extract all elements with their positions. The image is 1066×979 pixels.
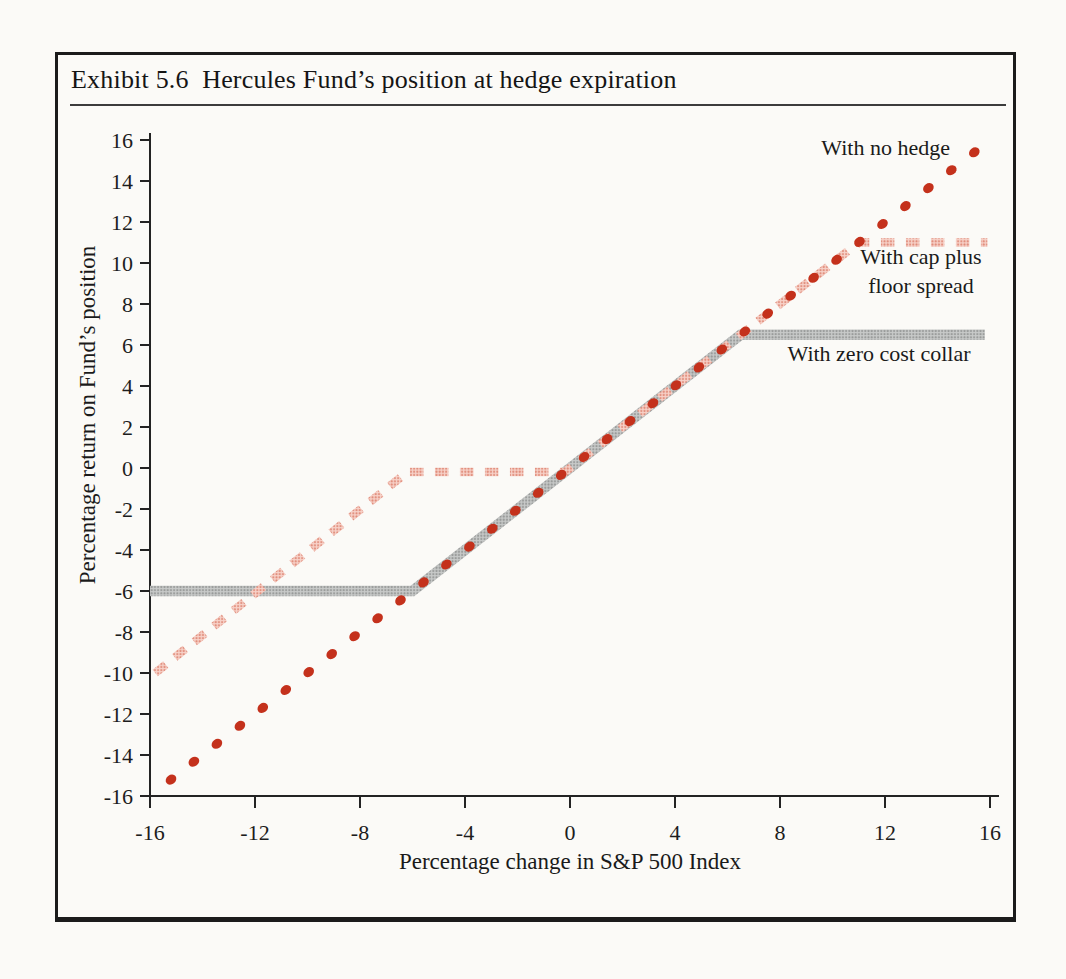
series-zero-cost-collar <box>150 335 985 591</box>
no-hedge-dot <box>347 629 362 643</box>
x-tick-label: 0 <box>565 820 576 845</box>
no-hedge-dot <box>187 755 202 769</box>
y-axis-title: Percentage return on Fund’s position <box>75 246 101 585</box>
x-tick-label: 4 <box>670 820 681 845</box>
y-tick-label: 2 <box>122 415 133 440</box>
x-tick-label: 12 <box>874 820 896 845</box>
y-tick-label: 8 <box>122 292 133 317</box>
y-tick-label: -14 <box>104 743 133 768</box>
no-hedge-dot <box>301 665 316 679</box>
no-hedge-dot <box>898 199 913 213</box>
x-tick-label: -8 <box>351 820 369 845</box>
series-label-cap-floor-line2: floor spread <box>868 273 974 298</box>
y-tick-label: 4 <box>122 374 133 399</box>
no-hedge-dot <box>210 737 225 751</box>
y-tick-label: 14 <box>111 169 133 194</box>
x-tick-label: -16 <box>135 820 164 845</box>
series-label-cap-floor-spread: With cap plus floor spread <box>843 242 999 300</box>
no-hedge-dot <box>967 145 982 159</box>
y-tick-label: 16 <box>111 128 133 153</box>
series-label-no-hedge: With no hedge <box>788 133 950 162</box>
no-hedge-dot <box>944 163 959 177</box>
no-hedge-dot <box>233 719 248 733</box>
y-tick-label: -2 <box>115 497 133 522</box>
x-tick-label: 8 <box>775 820 786 845</box>
y-tick-label: -4 <box>115 538 133 563</box>
no-hedge-dot <box>278 683 293 697</box>
y-tick-label: -16 <box>104 784 133 809</box>
no-hedge-dot <box>324 647 339 661</box>
x-axis-title: Percentage change in S&P 500 Index <box>150 849 990 875</box>
y-tick-label: -6 <box>115 579 133 604</box>
scanned-book-figure-page: Exhibit 5.6 Hercules Fund’s position at … <box>0 0 1066 979</box>
y-tick-label: -10 <box>104 661 133 686</box>
y-tick-label: 6 <box>122 333 133 358</box>
no-hedge-dot <box>255 701 270 715</box>
series-label-cap-floor-line1: With cap plus <box>860 244 981 269</box>
y-tick-label: -12 <box>104 702 133 727</box>
no-hedge-dot <box>370 611 385 625</box>
x-tick-label: -4 <box>456 820 474 845</box>
no-hedge-dot <box>921 181 936 195</box>
no-hedge-dot <box>164 772 179 786</box>
x-tick-label: -12 <box>240 820 269 845</box>
no-hedge-dot <box>875 217 890 231</box>
x-tick-label: 16 <box>979 820 1001 845</box>
y-tick-label: 0 <box>122 456 133 481</box>
series-label-zero-cost-collar: With zero cost collar <box>772 339 986 368</box>
y-tick-label: 10 <box>111 251 133 276</box>
y-tick-label: 12 <box>111 210 133 235</box>
y-tick-label: -8 <box>115 620 133 645</box>
series-cap-plus-floor-spread <box>155 243 987 674</box>
